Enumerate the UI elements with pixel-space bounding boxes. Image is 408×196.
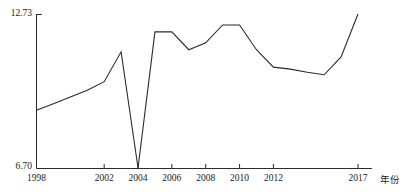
y-axis-max-label: 12.73 [0, 9, 32, 19]
chart-canvas [0, 0, 408, 196]
y-axis-min-label: 6.70 [0, 162, 32, 172]
x-axis-tick-label: 2008 [192, 174, 220, 184]
x-axis-tick-label: 2012 [259, 174, 287, 184]
x-axis-tick-label: 2002 [90, 174, 118, 184]
data-series-line [37, 14, 359, 168]
x-axis-tick-label: 2006 [158, 174, 186, 184]
x-axis-tick-label: 1998 [23, 174, 51, 184]
x-axis-title: 年份 [380, 176, 400, 186]
x-axis-tick-label: 2004 [124, 174, 152, 184]
line-chart: 12.73 6.70 19982002200420062008201020122… [0, 0, 408, 196]
x-axis-ticks [37, 164, 359, 169]
x-axis-tick-label: 2010 [226, 174, 254, 184]
x-axis-tick-label: 2017 [344, 174, 372, 184]
